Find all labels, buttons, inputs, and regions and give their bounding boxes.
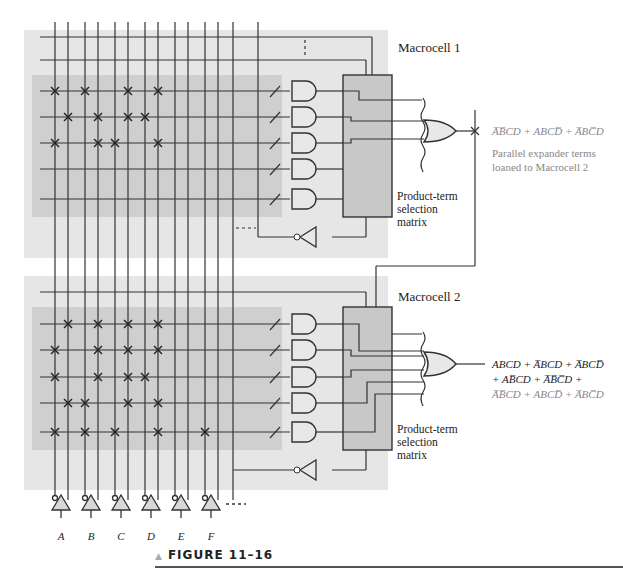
expander-note: Parallel expander terms loaned to Macroc… xyxy=(492,146,596,174)
macrocell2-and-array xyxy=(32,307,282,450)
macrocell1-selection-matrix xyxy=(343,75,392,217)
macrocell2-output-expression: ABCD + A̅BCD + A̅BCD̅ + AB̅CD + A̅B̅C̅D … xyxy=(492,357,604,402)
triangle-icon: ▲ xyxy=(155,551,163,561)
macrocell1-title: Macrocell 1 xyxy=(398,40,460,56)
input-label-c: C xyxy=(114,530,128,542)
input-label-f: F xyxy=(204,530,218,542)
input-label-d: D xyxy=(144,530,158,542)
input-buffers xyxy=(52,495,246,518)
macrocell1-and-array xyxy=(32,75,282,217)
macrocell2-or-gate xyxy=(424,352,456,376)
input-label-b: B xyxy=(84,530,98,542)
macrocell1-output-expression: A̅B̅CD + ABCD̅ + A̅BC̅D xyxy=(492,124,604,139)
macrocell2-matrix-label: Product-term selection matrix xyxy=(397,423,458,462)
macrocell1-matrix-label: Product-term selection matrix xyxy=(397,190,458,229)
macrocell1-or-gate xyxy=(424,120,456,142)
caption-rule xyxy=(155,566,623,568)
figure-caption: ▲FIGURE 11–16 xyxy=(155,548,273,562)
macrocell-diagram xyxy=(0,0,623,571)
macrocell2-title: Macrocell 2 xyxy=(398,289,460,305)
input-label-a: A xyxy=(54,530,68,542)
macrocell2-selection-matrix xyxy=(343,307,392,450)
input-label-e: E xyxy=(174,530,188,542)
